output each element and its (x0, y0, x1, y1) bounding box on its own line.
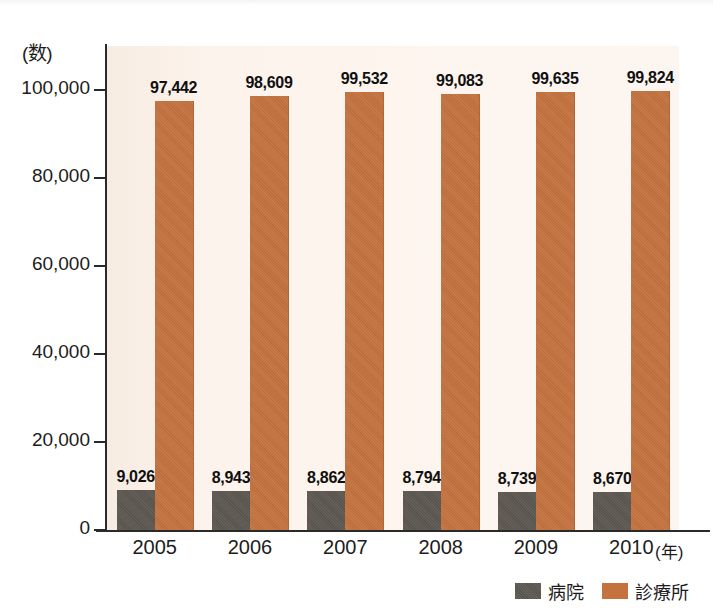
legend-item-clinic[interactable]: 診療所 (602, 578, 689, 604)
bar-病院-2009[interactable] (498, 492, 537, 530)
y-axis-tick-label: 40,000 (4, 341, 90, 363)
y-axis-tick-label: 20,000 (4, 429, 90, 451)
bar-診療所-2010[interactable] (631, 91, 670, 530)
y-axis-tick-label: 80,000 (4, 165, 90, 187)
bar-chart: (数) 020,00040,00060,00080,000100,000 9,0… (0, 0, 713, 608)
bar-診療所-2007[interactable] (345, 92, 384, 530)
x-axis-label-2008: 2008 (393, 536, 488, 559)
bar-value-label: 99,532 (324, 70, 404, 88)
x-axis-label-2009: 2009 (488, 536, 583, 559)
bar-病院-2007[interactable] (307, 491, 346, 530)
legend-label-hospital: 病院 (548, 578, 584, 604)
bar-value-label: 99,824 (610, 69, 690, 87)
bar-病院-2005[interactable] (117, 490, 156, 530)
bar-value-label: 99,083 (420, 72, 500, 90)
legend-swatch-clinic-icon (602, 583, 628, 599)
legend-label-clinic: 診療所 (635, 578, 689, 604)
y-axis-unit-label: (数) (22, 38, 52, 65)
bar-value-label: 98,609 (229, 74, 309, 92)
y-axis-tick (94, 441, 106, 443)
bar-診療所-2006[interactable] (250, 96, 289, 530)
y-axis-tick-label: 60,000 (4, 253, 90, 275)
x-axis-label-2007: 2007 (298, 536, 393, 559)
scan-edge-artifact (0, 0, 713, 5)
x-axis-label-2006: 2006 (202, 536, 297, 559)
y-axis-tick-label: 0 (4, 517, 90, 539)
bar-診療所-2008[interactable] (441, 94, 480, 530)
y-axis-tick (94, 89, 106, 91)
x-axis-line (96, 530, 710, 532)
y-axis-tick (94, 265, 106, 267)
bar-診療所-2009[interactable] (536, 92, 575, 530)
y-axis-tick (94, 529, 106, 531)
bar-診療所-2005[interactable] (155, 101, 194, 530)
y-axis-line (105, 44, 107, 532)
bar-病院-2010[interactable] (593, 492, 632, 530)
bar-病院-2006[interactable] (212, 491, 251, 530)
x-axis-unit-label: (年) (655, 538, 683, 563)
y-axis-tick (94, 353, 106, 355)
y-axis-tick-label: 100,000 (4, 77, 90, 99)
bar-value-label: 97,442 (134, 79, 214, 97)
x-axis-label-2005: 2005 (107, 536, 202, 559)
legend-swatch-hospital-icon (515, 583, 541, 599)
legend-item-hospital[interactable]: 病院 (515, 578, 584, 604)
chart-legend: 病院 診療所 (515, 578, 689, 604)
bar-value-label: 99,635 (515, 70, 595, 88)
bar-病院-2008[interactable] (403, 491, 442, 530)
y-axis-tick (94, 177, 106, 179)
